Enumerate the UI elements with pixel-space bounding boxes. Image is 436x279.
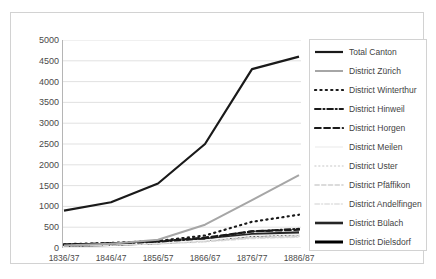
x-tick-label: 1856/57 [143, 253, 174, 263]
legend-swatch-icon [314, 122, 344, 134]
legend-item[interactable]: District Winterthur [310, 80, 428, 99]
y-tick-label: 2500 [39, 140, 59, 149]
y-tick-label: 0 [54, 244, 59, 253]
legend-swatch-icon [314, 236, 344, 248]
legend-item[interactable]: District Bülach [310, 213, 428, 232]
x-tick-label: 1866/67 [190, 253, 221, 263]
x-tick-label: 1886/87 [284, 253, 315, 263]
legend-item-label: District Meilen [349, 142, 402, 152]
y-tick-label: 3000 [39, 119, 59, 128]
legend-swatch-icon [314, 65, 344, 77]
legend-item[interactable]: District Andelfingen [310, 194, 428, 213]
y-axis: 0500100015002000250030003500400045005000 [21, 40, 59, 248]
legend-item[interactable]: District Uster [310, 156, 428, 175]
legend-item[interactable]: District Zürich [310, 61, 428, 80]
y-tick-label: 2000 [39, 160, 59, 169]
legend-item-label: District Uster [349, 161, 398, 171]
legend-item-label: District Hinweil [349, 104, 405, 114]
series-line [64, 57, 299, 211]
y-tick-label: 3500 [39, 98, 59, 107]
legend-item-label: District Andelfingen [349, 199, 422, 209]
legend-item-label: District Horgen [349, 123, 405, 133]
x-tick-label: 1846/47 [96, 253, 127, 263]
y-tick-label: 1000 [39, 202, 59, 211]
plot-area [62, 40, 301, 248]
legend-item[interactable]: Total Canton [310, 42, 428, 61]
y-tick-label: 4000 [39, 77, 59, 86]
legend-item[interactable]: District Hinweil [310, 99, 428, 118]
plot-svg [62, 40, 301, 248]
legend-swatch-icon [314, 217, 344, 229]
y-tick-label: 1500 [39, 181, 59, 190]
legend-item[interactable]: District Meilen [310, 137, 428, 156]
y-tick-label: 4500 [39, 56, 59, 65]
legend-swatch-icon [314, 179, 344, 191]
legend-swatch-icon [314, 84, 344, 96]
legend-item[interactable]: District Horgen [310, 118, 428, 137]
legend-swatch-icon [314, 103, 344, 115]
legend-swatch-icon [314, 198, 344, 210]
legend-item[interactable]: District Pfäffikon [310, 175, 428, 194]
chart-legend: Total CantonDistrict ZürichDistrict Wint… [309, 39, 427, 251]
legend-item-label: District Winterthur [349, 85, 417, 95]
legend-swatch-icon [314, 160, 344, 172]
legend-item-label: District Bülach [349, 218, 403, 228]
legend-item-label: Total Canton [349, 47, 397, 57]
x-axis: 1836/371846/471856/571866/671876/771886/… [62, 253, 301, 267]
x-tick-label: 1876/77 [237, 253, 268, 263]
chart-screenshot: 0500100015002000250030003500400045005000… [0, 0, 436, 279]
legend-item-label: District Dielsdorf [349, 237, 411, 247]
legend-swatch-icon [314, 46, 344, 58]
legend-item-label: District Zürich [349, 66, 401, 76]
legend-item-label: District Pfäffikon [349, 180, 410, 190]
legend-swatch-icon [314, 141, 344, 153]
x-tick-label: 1836/37 [49, 253, 80, 263]
y-tick-label: 5000 [39, 36, 59, 45]
y-tick-label: 500 [44, 223, 59, 232]
legend-item[interactable]: District Dielsdorf [310, 232, 428, 251]
chart-frame: 0500100015002000250030003500400045005000… [10, 12, 424, 264]
